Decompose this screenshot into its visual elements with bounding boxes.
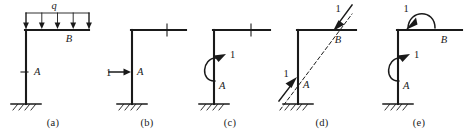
label-b: B <box>441 34 448 45</box>
unit-force-arrow <box>109 68 131 75</box>
panel-e: 1 B 1 A (e) <box>372 0 466 130</box>
label-force-a-1: 1 <box>283 68 288 79</box>
label-a: A <box>33 66 41 77</box>
unit-moment-arc <box>205 54 226 81</box>
distributed-load-arrows <box>23 13 92 29</box>
unit-moment-arc-top <box>406 14 436 30</box>
panel-b-drawing: 1 A <box>106 0 188 130</box>
panel-caption-a: (a) <box>0 117 106 128</box>
label-a: A <box>136 66 144 77</box>
unit-force-arrow-a <box>279 77 297 101</box>
label-force-b-1: 1 <box>335 3 340 14</box>
panel-b: 1 A (b) <box>106 0 188 130</box>
panel-d-drawing: 1 B 1 A <box>272 0 372 130</box>
label-a: A <box>302 79 310 90</box>
panel-caption-e: (e) <box>372 117 466 128</box>
label-q: q <box>51 0 56 11</box>
diagonal-reference-line <box>280 14 352 110</box>
panel-a: q B A (a) <box>0 0 106 130</box>
panel-c-drawing: 1 A <box>188 0 272 130</box>
panel-a-drawing: q B A <box>0 0 106 130</box>
panel-caption-c: (c) <box>188 117 272 128</box>
unit-moment-arc-base <box>389 54 410 81</box>
panel-d: 1 B 1 A (d) <box>272 0 372 130</box>
panel-caption-b: (b) <box>106 117 188 128</box>
label-moment-1: 1 <box>230 49 235 60</box>
label-b: B <box>335 34 342 45</box>
label-moment-base-1: 1 <box>414 49 419 60</box>
panel-e-drawing: 1 B 1 A <box>372 0 466 130</box>
label-a: A <box>402 80 410 91</box>
figure-sheet: q B A (a) <box>0 0 466 130</box>
label-a: A <box>218 80 226 91</box>
label-force-1: 1 <box>106 67 111 78</box>
panel-c: 1 A (c) <box>188 0 272 130</box>
label-b: B <box>66 33 73 44</box>
panel-caption-d: (d) <box>272 117 372 128</box>
label-moment-top-1: 1 <box>403 3 408 14</box>
